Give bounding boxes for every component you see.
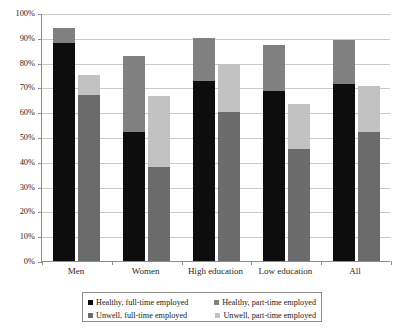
y-tick-label: 30% — [0, 184, 35, 192]
bar-segment — [218, 64, 240, 112]
x-tick-mark — [112, 261, 113, 265]
y-tick-label: 20% — [0, 208, 35, 216]
bar-segment — [78, 95, 100, 261]
bar-segment — [333, 84, 355, 261]
y-tick-label: 60% — [0, 109, 35, 117]
bar-chart: 100%90%80%70%60%50%40%30%20%10%0% MenWom… — [0, 0, 404, 332]
bar-unwell[interactable] — [358, 86, 380, 261]
y-tick-label: 100% — [0, 10, 35, 18]
bar-segment — [148, 167, 170, 261]
bar-segment — [358, 86, 380, 132]
bar-segment — [263, 45, 285, 91]
bar-segment — [148, 96, 170, 167]
bar-segment — [358, 132, 380, 261]
bar-unwell[interactable] — [148, 96, 170, 261]
legend-item-unwell-part-time: Unwell, part-time employed — [215, 311, 316, 320]
y-tick-label: 90% — [0, 35, 35, 43]
bar-segment — [263, 91, 285, 261]
x-tick-mark — [182, 261, 183, 265]
gridline — [42, 262, 390, 263]
y-tick-label: 40% — [0, 159, 35, 167]
x-tick-mark — [391, 261, 392, 265]
bar-segment — [288, 149, 310, 261]
x-tick-mark — [251, 261, 252, 265]
bar-group — [123, 14, 170, 261]
bar-segment — [288, 104, 310, 150]
bar-segment — [123, 132, 145, 261]
y-tick-label: 70% — [0, 84, 35, 92]
bar-segment — [123, 56, 145, 132]
bar-segment — [333, 40, 355, 83]
legend-swatch-healthy-part-time — [214, 300, 219, 305]
legend-item-healthy-full-time: Healthy, full-time employed — [88, 298, 214, 307]
y-tick-mark — [38, 113, 42, 114]
bar-segment — [53, 43, 75, 261]
legend-label-unwell-full-time: Unwell, full-time employed — [96, 311, 187, 320]
bar-unwell[interactable] — [218, 64, 240, 261]
bar-group — [53, 14, 100, 261]
y-tick-mark — [38, 39, 42, 40]
legend-swatch-unwell-part-time — [215, 313, 220, 318]
y-tick-label: 50% — [0, 134, 35, 142]
y-tick-mark — [38, 64, 42, 65]
legend-row: Healthy, full-time employed Healthy, par… — [88, 296, 316, 308]
bar-unwell[interactable] — [78, 75, 100, 261]
bar-healthy[interactable] — [193, 38, 215, 261]
y-tick-mark — [38, 14, 42, 15]
bar-group — [193, 14, 240, 261]
bar-healthy[interactable] — [123, 56, 145, 261]
bar-unwell[interactable] — [288, 104, 310, 261]
x-tick-label: All — [305, 266, 404, 276]
bar-group — [263, 14, 310, 261]
y-tick-label: 80% — [0, 60, 35, 68]
x-tick-mark — [42, 261, 43, 265]
legend-label-unwell-part-time: Unwell, part-time employed — [223, 311, 316, 320]
y-tick-mark — [38, 188, 42, 189]
legend-swatch-unwell-full-time — [88, 313, 93, 318]
chart-legend: Healthy, full-time employed Healthy, par… — [82, 292, 322, 322]
y-tick-mark — [38, 88, 42, 89]
y-tick-mark — [38, 237, 42, 238]
bar-segment — [53, 28, 75, 43]
legend-item-healthy-part-time: Healthy, part-time employed — [214, 298, 316, 307]
bar-group — [333, 14, 380, 261]
legend-label-healthy-full-time: Healthy, full-time employed — [96, 298, 188, 307]
bar-healthy[interactable] — [333, 40, 355, 261]
bar-segment — [78, 75, 100, 95]
bar-healthy[interactable] — [263, 45, 285, 261]
y-tick-mark — [38, 212, 42, 213]
legend-label-healthy-part-time: Healthy, part-time employed — [222, 298, 316, 307]
legend-swatch-healthy-full-time — [88, 300, 93, 305]
bar-segment — [193, 38, 215, 81]
bar-healthy[interactable] — [53, 28, 75, 261]
y-tick-mark — [38, 138, 42, 139]
y-tick-mark — [38, 163, 42, 164]
bar-segment — [193, 81, 215, 261]
plot-area — [41, 14, 390, 262]
bar-segment — [218, 112, 240, 261]
y-tick-label: 10% — [0, 233, 35, 241]
legend-row: Unwell, full-time employed Unwell, part-… — [88, 309, 316, 321]
x-tick-mark — [321, 261, 322, 265]
legend-item-unwell-full-time: Unwell, full-time employed — [88, 311, 215, 320]
